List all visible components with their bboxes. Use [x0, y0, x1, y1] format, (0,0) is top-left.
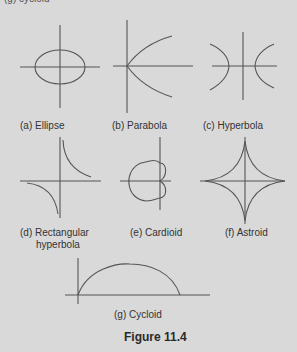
- cardioid-diagram: [120, 137, 171, 210]
- label-rectangular-hyperbola-line2: hyperbola: [36, 239, 80, 250]
- cycloid-diagram: [65, 258, 210, 304]
- label-ellipse: (a) Ellipse: [20, 120, 64, 131]
- figure-caption: Figure 11.4: [124, 330, 187, 344]
- ellipse-diagram: [20, 25, 100, 108]
- astroid-diagram: [200, 137, 285, 224]
- label-cardioid: (e) Cardioid: [130, 227, 182, 238]
- label-hyperbola: (c) Hyperbola: [203, 120, 263, 131]
- label-parabola: (b) Parabola: [112, 120, 167, 131]
- rectangular-hyperbola-diagram: [20, 137, 101, 218]
- hyperbola-diagram: [210, 32, 277, 100]
- curves-figure: [0, 0, 297, 352]
- label-astroid: (f) Astroid: [225, 227, 268, 238]
- label-rectangular-hyperbola-line1: (d) Rectangular: [20, 227, 89, 238]
- parabola-diagram: [113, 20, 193, 113]
- label-cycloid: (g) Cycloid: [114, 309, 162, 320]
